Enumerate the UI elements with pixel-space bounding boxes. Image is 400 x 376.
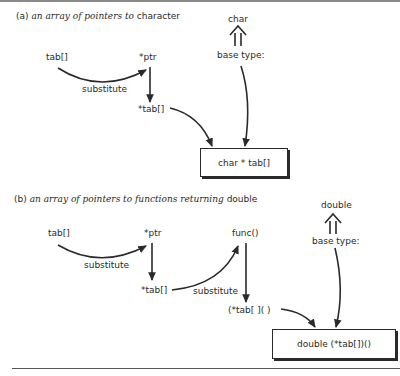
b-node-func: func() (232, 228, 259, 238)
a-node-star-tab: *tab[] (138, 104, 164, 114)
caption-b-suffix: double (227, 194, 258, 204)
a-startab-to-box-arrow (170, 108, 212, 146)
a-base-type-value: char (228, 14, 248, 24)
caption-a-italic: an array of pointers to (31, 11, 134, 21)
b-node-star-tab-func: (*tab[ ]( ) (228, 305, 271, 315)
caption-a: (a) an array of pointers to character (16, 11, 180, 21)
b-result-text: double (*tab[])() (297, 339, 371, 349)
b-base-type-label: base type: (312, 236, 359, 246)
b-base-type-value: double (321, 200, 352, 210)
a-node-ptr: *ptr (139, 52, 156, 62)
caption-a-prefix: (a) (16, 11, 29, 21)
a-basetype-to-box-arrow (241, 66, 248, 146)
b-startabfunc-to-box-arrow (281, 309, 315, 327)
b-basetype-to-box-arrow (335, 248, 340, 327)
b-substitute-arrow (58, 245, 146, 258)
caption-a-suffix: character (137, 11, 180, 21)
caption-b: (b) an array of pointers to functions re… (14, 194, 257, 204)
b-node-star-tab: *tab[] (141, 285, 167, 295)
a-substitute-arrow (58, 68, 146, 82)
b-edge-substitute-2: substitute (193, 286, 238, 296)
a-result-box: char * tab[] (200, 148, 288, 177)
b-startab-to-func-arrow (172, 246, 238, 290)
b-result-box: double (*tab[])() (272, 329, 396, 359)
a-base-type-label: base type: (217, 50, 264, 60)
caption-b-prefix: (b) (14, 194, 27, 204)
a-edge-substitute: substitute (82, 84, 127, 94)
b-edge-substitute-1: substitute (84, 260, 129, 270)
b-node-ptr: *ptr (144, 228, 161, 238)
a-result-text: char * tab[] (218, 158, 270, 168)
b-node-tab: tab[] (48, 228, 70, 238)
a-node-tab: tab[] (46, 52, 68, 62)
bottom-rule (12, 368, 400, 369)
caption-b-italic: an array of pointers to functions return… (30, 194, 224, 204)
